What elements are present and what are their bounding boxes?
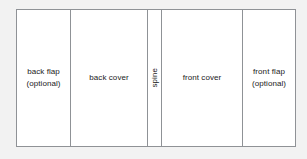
panel-spine-label: spine [149,66,161,90]
panel-front-cover-label: front cover [181,72,224,84]
panel-back-cover: back cover [71,10,148,146]
panel-back-flap-label: back flap (optional) [24,66,62,89]
panel-front-flap-label: front flap (optional) [250,66,288,89]
book-jacket-diagram: back flap (optional) back cover spine fr… [16,9,296,147]
panel-spine: spine [148,10,162,146]
panel-front-cover: front cover [162,10,243,146]
panel-back-flap: back flap (optional) [17,10,71,146]
panel-front-flap: front flap (optional) [243,10,295,146]
panel-back-cover-label: back cover [87,72,130,84]
